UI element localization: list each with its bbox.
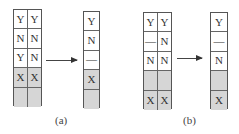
table-cell	[27, 88, 41, 107]
table-cell: X	[157, 91, 171, 110]
table-row	[14, 88, 41, 107]
table-cell: X	[211, 91, 227, 110]
table-cell: Y	[14, 49, 27, 67]
table-cell: —	[84, 51, 99, 69]
table-row: X X	[14, 68, 41, 87]
table-cell: N	[211, 52, 227, 70]
table-cell: Y	[211, 13, 227, 31]
table-row: N	[211, 52, 227, 71]
table-cell	[144, 71, 157, 89]
panel-b-caption: (b)	[183, 114, 196, 126]
table-row: —	[84, 51, 99, 70]
table-cell: Y	[14, 10, 27, 28]
table-cell	[211, 71, 227, 89]
arrow-right-icon	[177, 58, 202, 59]
panel-a-caption: (a)	[55, 114, 67, 126]
table-row: — N	[144, 32, 171, 51]
table-row: Y Y	[14, 10, 41, 29]
table-cell: Y	[27, 10, 41, 28]
table-row: —	[211, 32, 227, 51]
table-cell: Y	[144, 13, 157, 31]
panel-a-after-table: Y N — X	[83, 11, 100, 108]
table-cell: Y	[84, 12, 99, 30]
table-cell: N	[157, 32, 171, 50]
table-row: N	[84, 31, 99, 50]
arrow-right-icon	[46, 60, 77, 61]
table-cell: N	[27, 49, 41, 67]
table-cell: —	[211, 32, 227, 50]
table-row: X	[211, 91, 227, 110]
table-cell: Y	[157, 13, 171, 31]
table-row	[144, 71, 171, 90]
table-row: X	[84, 70, 99, 89]
table-row: N N	[144, 52, 171, 71]
table-cell: N	[144, 52, 157, 70]
table-row: Y	[211, 13, 227, 32]
table-cell: N	[157, 52, 171, 70]
panel-b-after-table: Y — N X	[210, 12, 228, 109]
table-row: X X	[144, 91, 171, 110]
panel-b-before-table: Y Y — N N N X X	[143, 12, 172, 109]
table-cell: X	[14, 68, 27, 86]
table-cell	[157, 71, 171, 89]
table-cell	[84, 90, 99, 109]
table-row	[211, 71, 227, 90]
table-cell: X	[144, 91, 157, 110]
table-cell	[14, 88, 27, 107]
table-cell: X	[27, 68, 41, 86]
table-cell: X	[84, 70, 99, 88]
table-row	[84, 90, 99, 109]
table-cell: N	[84, 31, 99, 49]
table-row: Y	[84, 12, 99, 31]
table-row: N N	[14, 29, 41, 48]
table-cell: —	[144, 32, 157, 50]
table-cell: N	[27, 29, 41, 47]
table-cell: N	[14, 29, 27, 47]
panel-a-before-table: Y Y N N Y N X X	[13, 9, 42, 106]
table-row: Y N	[14, 49, 41, 68]
table-row: Y Y	[144, 13, 171, 32]
